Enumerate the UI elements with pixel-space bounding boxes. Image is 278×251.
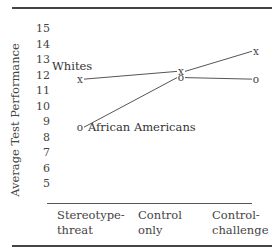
o-marker-point: o (77, 121, 83, 133)
x-axis-rule (47, 203, 252, 204)
x-marker-point: x (253, 45, 259, 57)
o-marker-point: o (253, 73, 259, 85)
series-label-whites: Whites (52, 59, 92, 73)
series-label-african-americans: African Americans (88, 120, 196, 134)
line-segment-whites (185, 51, 252, 71)
line-segment-whites (84, 71, 177, 79)
x-category-stereotype-threat: Stereotype- threat (57, 208, 125, 238)
x-category-control-only: Control only (138, 208, 182, 238)
line-segment-african-americans (185, 78, 252, 80)
x-marker-point: x (77, 73, 83, 85)
o-marker-point: o (178, 71, 184, 83)
x-category-control-challenge: Control- challenge (212, 208, 268, 238)
bottom-rule (12, 245, 272, 247)
